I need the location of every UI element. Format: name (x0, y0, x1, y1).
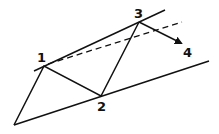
dashed-projection-line (48, 22, 182, 64)
arrow-to-4 (139, 22, 181, 43)
price-path (14, 22, 139, 125)
point-label-2: 2 (97, 99, 106, 114)
lower-trendline (14, 61, 209, 125)
upper-trendline (34, 10, 165, 71)
point-label-1: 1 (37, 50, 46, 65)
point-label-4: 4 (183, 45, 192, 60)
channel-diagram: 1 2 3 4 (0, 0, 219, 134)
point-label-3: 3 (134, 6, 143, 21)
